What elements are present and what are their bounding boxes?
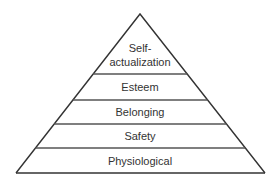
tier-label: Physiological xyxy=(108,155,172,167)
tier-esteem: Esteem xyxy=(121,81,158,93)
hierarchy-pyramid: Self- actualization Esteem Belonging Saf… xyxy=(0,0,279,185)
tier-safety: Safety xyxy=(124,130,156,142)
tier-label-line: Self- xyxy=(129,42,152,54)
tier-belonging: Belonging xyxy=(116,106,165,118)
tier-self-actualization: Self- actualization xyxy=(109,42,170,68)
pyramid-outline xyxy=(16,14,265,173)
tier-label-line: actualization xyxy=(109,56,170,68)
tier-label: Belonging xyxy=(116,106,165,118)
tier-physiological: Physiological xyxy=(108,155,172,167)
tier-label: Esteem xyxy=(121,81,158,93)
tier-label: Safety xyxy=(124,130,156,142)
